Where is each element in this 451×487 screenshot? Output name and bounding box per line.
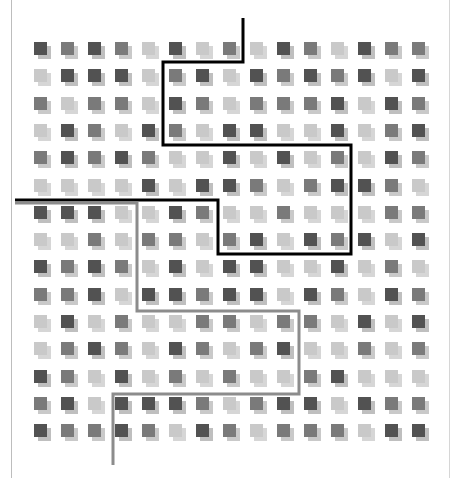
partition-paths xyxy=(0,0,451,487)
black-partition-path xyxy=(15,18,351,254)
grid-diagram xyxy=(0,0,451,487)
gray-partition-path xyxy=(15,203,299,465)
